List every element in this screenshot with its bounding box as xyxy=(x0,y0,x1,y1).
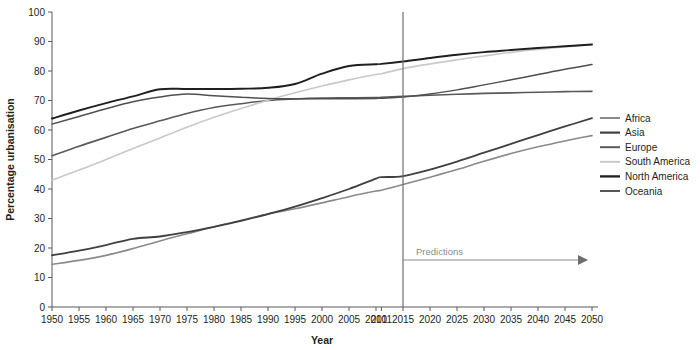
y-axis-tick-group: 0102030405060708090100 xyxy=(28,7,52,313)
chart-canvas: 0102030405060708090100 19501955196019651… xyxy=(0,0,700,350)
x-tick-label: 1975 xyxy=(176,314,199,325)
predictions-arrow-head-icon xyxy=(578,255,588,265)
x-tick-label: 1950 xyxy=(41,314,64,325)
legend-item-oceania[interactable]: Oceania xyxy=(600,186,663,197)
x-tick-label: 2005 xyxy=(338,314,361,325)
y-axis: 0102030405060708090100 xyxy=(28,7,52,313)
legend-label: South America xyxy=(625,156,690,167)
x-tick-label: 1970 xyxy=(149,314,172,325)
y-tick-label: 60 xyxy=(34,125,46,136)
legend-label: Asia xyxy=(625,127,645,138)
y-tick-label: 50 xyxy=(34,154,46,165)
x-tick-label: 2025 xyxy=(446,314,469,325)
x-axis-title: Year xyxy=(311,334,333,346)
x-axis-tick-group: 1950195519601965197019751980198519901995… xyxy=(41,307,604,325)
x-tick-label: 1990 xyxy=(257,314,280,325)
predictions-annotation: Predictions xyxy=(403,12,588,307)
y-tick-label: 30 xyxy=(34,213,46,224)
y-tick-label: 40 xyxy=(34,184,46,195)
x-tick-label: 2050 xyxy=(581,314,604,325)
y-tick-label: 10 xyxy=(34,272,46,283)
series-line-africa xyxy=(52,136,592,265)
x-tick-label: 2030 xyxy=(473,314,496,325)
x-tick-label: 2045 xyxy=(554,314,577,325)
x-tick-label: 1985 xyxy=(230,314,253,325)
y-axis-title: Percentage urbanisation xyxy=(4,98,16,221)
x-tick-label: 1960 xyxy=(95,314,118,325)
series-line-north-america xyxy=(52,44,592,118)
y-tick-label: 70 xyxy=(34,95,46,106)
predictions-label: Predictions xyxy=(416,246,463,257)
x-tick-label: 2020 xyxy=(419,314,442,325)
legend-label: North America xyxy=(625,171,689,182)
series-group xyxy=(52,44,592,264)
legend: AfricaAsiaEuropeSouth AmericaNorth Ameri… xyxy=(600,113,690,197)
x-tick-label: 2000 xyxy=(311,314,334,325)
legend-item-asia[interactable]: Asia xyxy=(600,127,645,138)
series-line-asia xyxy=(52,118,592,255)
legend-label: Oceania xyxy=(625,186,663,197)
x-tick-label: 1980 xyxy=(203,314,226,325)
x-tick-label: 1995 xyxy=(284,314,307,325)
urbanisation-line-chart: 0102030405060708090100 19501955196019651… xyxy=(0,0,700,350)
y-tick-label: 80 xyxy=(34,66,46,77)
legend-label: Europe xyxy=(625,142,658,153)
x-tick-label: 1965 xyxy=(122,314,145,325)
legend-label: Africa xyxy=(625,113,651,124)
y-tick-label: 90 xyxy=(34,36,46,47)
x-tick-label: 2040 xyxy=(527,314,550,325)
x-tick-label: 1955 xyxy=(68,314,91,325)
series-line-south-america xyxy=(52,44,592,180)
legend-item-north-america[interactable]: North America xyxy=(600,171,689,182)
y-tick-label: 0 xyxy=(39,302,45,313)
x-tick-label: 2015 xyxy=(392,314,415,325)
y-tick-label: 20 xyxy=(34,243,46,254)
legend-item-south-america[interactable]: South America xyxy=(600,156,690,167)
y-tick-label: 100 xyxy=(28,7,45,18)
x-tick-label: 2035 xyxy=(500,314,523,325)
legend-item-africa[interactable]: Africa xyxy=(600,113,651,124)
legend-item-europe[interactable]: Europe xyxy=(600,142,658,153)
x-tick-label: 2011 xyxy=(371,314,393,325)
x-axis: 1950195519601965197019751980198519901995… xyxy=(41,307,604,325)
